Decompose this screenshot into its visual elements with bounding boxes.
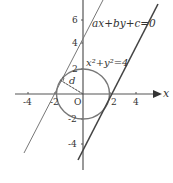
distance-label: d xyxy=(69,75,75,86)
y-tick-label: -4 xyxy=(68,139,77,149)
y-tick-label: 6 xyxy=(72,15,78,25)
x-tick-label: -2 xyxy=(50,97,59,107)
x-axis-arrow-icon xyxy=(153,90,162,98)
x-tick-label: -4 xyxy=(23,97,32,107)
origin-label: O xyxy=(74,97,81,107)
coordinate-diagram: -4 -2 O 2 4 x 6 4 2 -2 -4 ax+by+c=0 x²+y… xyxy=(0,0,173,183)
y-tick-label: 2 xyxy=(72,64,78,74)
line-equation-label: ax+by+c=0 xyxy=(92,17,156,29)
circle-equation-label: x²+y²=4 xyxy=(86,57,128,68)
y-tick-label: -2 xyxy=(68,114,77,124)
y-tick-label: 4 xyxy=(72,38,78,48)
x-axis-label: x xyxy=(163,87,170,100)
x-tick-label: 4 xyxy=(133,97,139,107)
x-tick-label: 2 xyxy=(111,97,117,107)
